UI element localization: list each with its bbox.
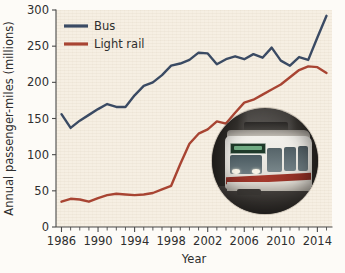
photo-vignette bbox=[212, 108, 318, 214]
legend-label-light-rail: Light rail bbox=[94, 37, 145, 51]
x-axis-tick-label: 1994 bbox=[120, 234, 149, 248]
legend-label-bus: Bus bbox=[94, 19, 115, 33]
x-axis-tick-label: 1998 bbox=[157, 234, 186, 248]
y-axis-tick-label: 50 bbox=[34, 184, 49, 198]
chart-legend: BusLight rail bbox=[64, 19, 145, 51]
y-axis-tick-label: 200 bbox=[27, 75, 49, 89]
chart-figure: 0501001502002503001986199019941998200220… bbox=[0, 0, 345, 273]
x-axis-title: Year bbox=[181, 252, 207, 266]
axis-titles: YearAnnual passenger-miles (millions) bbox=[2, 21, 206, 266]
x-axis-tick-label: 2002 bbox=[193, 234, 222, 248]
y-axis-tick-label: 100 bbox=[27, 148, 49, 162]
x-axis-tick-label: 2010 bbox=[266, 234, 295, 248]
y-axis-tick-label: 250 bbox=[27, 39, 49, 53]
y-axis-tick-label: 300 bbox=[27, 3, 49, 17]
x-axis-tick-label: 1990 bbox=[83, 234, 112, 248]
y-axis-tick-label: 150 bbox=[27, 112, 49, 126]
light-rail-train-photo bbox=[212, 108, 318, 214]
x-axis-tick-label: 2006 bbox=[230, 234, 259, 248]
x-axis-tick-label: 2014 bbox=[303, 234, 332, 248]
y-axis-title: Annual passenger-miles (millions) bbox=[2, 21, 16, 215]
x-axis-tick-label: 1986 bbox=[47, 234, 76, 248]
y-axis-tick-label: 0 bbox=[42, 220, 49, 234]
